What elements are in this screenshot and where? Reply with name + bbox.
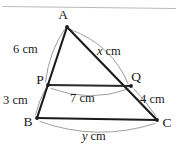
segment-pq — [48, 85, 131, 86]
measure-label-bc: ycm — [80, 129, 106, 143]
measure-label-pb: 3 cm — [3, 93, 28, 107]
vertex-label-b: B — [23, 114, 32, 129]
measure-label-bc-variable: y — [80, 129, 88, 143]
measure-label-pq: 7 cm — [70, 91, 95, 105]
vertex-dot-p — [46, 83, 50, 87]
vertex-dot-b — [35, 116, 39, 120]
vertex-label-p: P — [36, 72, 44, 87]
vertex-label-a: A — [58, 7, 68, 22]
geometry-figure: A B C P Q 6 cm xcm 3 cm 4 cm 7 cm ycm — [0, 0, 182, 149]
measure-label-aq-variable: x — [96, 44, 103, 58]
vertex-label-c: C — [162, 115, 171, 130]
top-divider-rule — [2, 7, 176, 9]
vertex-dot-q — [129, 84, 133, 88]
measure-label-qc: 4 cm — [140, 92, 165, 106]
measure-label-bc-unit: cm — [91, 129, 107, 143]
vertex-dot-c — [155, 118, 159, 122]
measure-label-aq: xcm — [96, 44, 121, 58]
measure-label-ap: 6 cm — [13, 42, 38, 56]
measure-label-aq-unit: cm — [106, 44, 122, 58]
triangle-diagram-canvas: A B C P Q 6 cm xcm 3 cm 4 cm 7 cm ycm — [0, 0, 182, 149]
vertex-dot-a — [65, 25, 69, 29]
vertex-label-q: Q — [131, 69, 141, 84]
